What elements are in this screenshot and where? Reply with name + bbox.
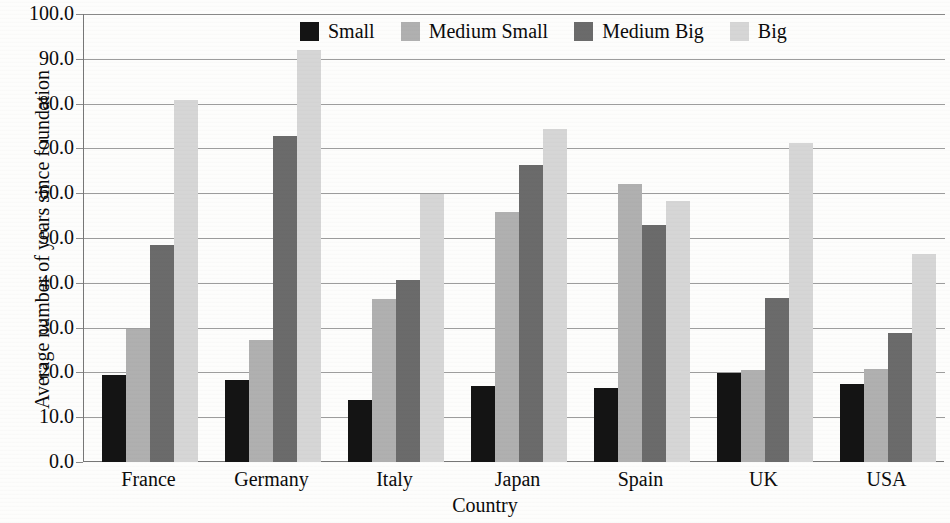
legend-item: Medium Small xyxy=(401,21,548,41)
y-axis-tick-mark xyxy=(76,372,83,373)
y-axis-tick-label: 60.0 xyxy=(0,182,74,202)
bar xyxy=(126,329,150,462)
y-axis-tick-mark xyxy=(76,283,83,284)
bar xyxy=(519,165,543,462)
x-axis-tick-label: Spain xyxy=(581,468,701,490)
y-axis-tick-mark xyxy=(76,14,83,15)
bar xyxy=(666,201,690,462)
x-axis-tick-labels: FranceGermanyItalyJapanSpainUKUSA xyxy=(83,468,944,496)
y-axis-tick-label: 0.0 xyxy=(0,451,74,471)
y-axis-tick-label: 40.0 xyxy=(0,272,74,292)
bar-group xyxy=(471,14,567,462)
x-axis-tick-label: Japan xyxy=(458,468,578,490)
bar xyxy=(618,184,642,462)
bar xyxy=(717,373,741,462)
bar xyxy=(888,333,912,462)
bar xyxy=(642,225,666,462)
y-axis-tick-mark xyxy=(76,104,83,105)
bar-group xyxy=(594,14,690,462)
x-axis-tick-label: UK xyxy=(704,468,824,490)
x-axis-tick-label: Italy xyxy=(335,468,455,490)
bar xyxy=(102,375,126,462)
bar xyxy=(471,386,495,462)
y-axis-tick-label: 100.0 xyxy=(0,3,74,23)
y-axis-tick-label: 70.0 xyxy=(0,137,74,157)
legend-label: Medium Small xyxy=(429,21,548,41)
bar-group xyxy=(225,14,321,462)
bar-group xyxy=(348,14,444,462)
plot-area xyxy=(83,14,944,462)
y-axis-tick-mark xyxy=(76,417,83,418)
bar xyxy=(864,369,888,462)
legend-item: Big xyxy=(730,21,787,41)
bar xyxy=(765,298,789,462)
y-axis-tick-mark xyxy=(76,59,83,60)
bars-layer xyxy=(84,14,945,462)
y-axis-tick-mark xyxy=(76,148,83,149)
y-axis-tick-label: 10.0 xyxy=(0,406,74,426)
bar xyxy=(273,136,297,462)
y-axis-tick-mark xyxy=(76,328,83,329)
bar xyxy=(396,280,420,462)
y-axis-tick-labels: 0.010.020.030.040.050.060.070.080.090.01… xyxy=(0,0,74,523)
x-axis-tick-label: France xyxy=(89,468,209,490)
y-axis-tick-label: 90.0 xyxy=(0,48,74,68)
bar xyxy=(789,143,813,462)
x-axis-title-text: Country xyxy=(452,494,518,516)
bar xyxy=(594,388,618,462)
legend-swatch-icon xyxy=(401,22,420,41)
chart-legend: SmallMedium SmallMedium BigBig xyxy=(300,18,813,44)
bar-group xyxy=(717,14,813,462)
bar-group xyxy=(840,14,936,462)
legend-item: Small xyxy=(300,21,375,41)
bar xyxy=(225,380,249,462)
y-axis-tick-mark xyxy=(76,193,83,194)
x-axis-title: Country xyxy=(0,494,950,517)
y-axis-tick-label: 20.0 xyxy=(0,361,74,381)
bar xyxy=(495,212,519,462)
bar xyxy=(150,245,174,462)
y-axis-tick-mark xyxy=(76,462,83,463)
bar xyxy=(372,299,396,462)
y-axis-tick-label: 30.0 xyxy=(0,317,74,337)
bar xyxy=(348,400,372,462)
bar xyxy=(543,129,567,462)
bar-group xyxy=(102,14,198,462)
bar xyxy=(174,100,198,462)
legend-label: Big xyxy=(758,21,787,41)
bar xyxy=(420,194,444,462)
x-axis-tick-label: USA xyxy=(827,468,947,490)
y-axis-tick-mark xyxy=(76,238,83,239)
bar-chart: Average number of years since foundation… xyxy=(0,0,950,523)
bar xyxy=(249,340,273,462)
legend-label: Small xyxy=(328,21,375,41)
legend-item: Medium Big xyxy=(574,21,704,41)
bar xyxy=(297,50,321,462)
legend-swatch-icon xyxy=(574,22,593,41)
legend-label: Medium Big xyxy=(602,21,704,41)
legend-swatch-icon xyxy=(300,22,319,41)
bar xyxy=(912,254,936,462)
y-axis-tick-label: 50.0 xyxy=(0,227,74,247)
y-axis-tick-label: 80.0 xyxy=(0,93,74,113)
x-axis-tick-label: Germany xyxy=(212,468,332,490)
legend-swatch-icon xyxy=(730,22,749,41)
bar xyxy=(840,384,864,462)
bar xyxy=(741,370,765,462)
